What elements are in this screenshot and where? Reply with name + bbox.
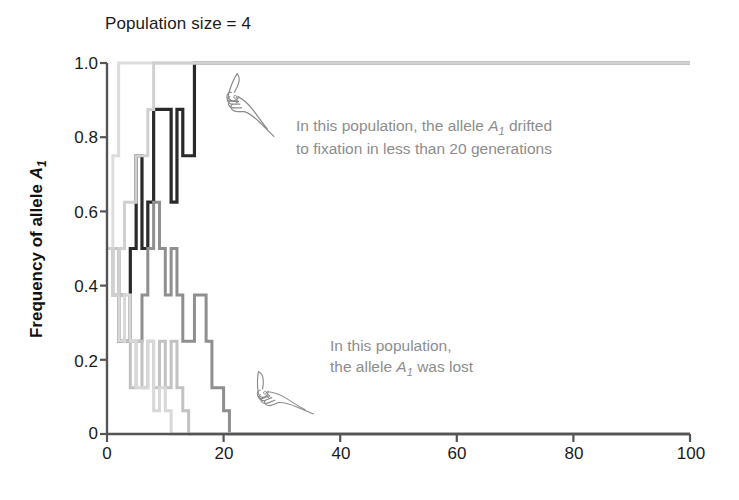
annotation-fixation-allele: A [488, 117, 498, 134]
annotation-fixation-line1: In this population, the allele A1 drifte… [296, 116, 552, 139]
annotation-fixation-line1-b: drifted [505, 117, 552, 134]
annotation-lost-line1: In this population, [330, 336, 473, 357]
annotation-fixation: In this population, the allele A1 drifte… [296, 116, 552, 160]
hand-pointing-icon-fixation [227, 74, 274, 137]
hand-pointing-icon-lost [249, 358, 313, 430]
annotation-fixation-line1-a: In this population, the allele [296, 117, 488, 134]
annotation-lost-line2-b: was lost [413, 358, 473, 375]
series-line-population-2-lost-midgray [107, 202, 690, 434]
genetic-drift-chart: Population size = 4 Frequency of allele … [0, 0, 739, 500]
annotation-lost-line2-a: the allele [330, 358, 396, 375]
annotation-lost: In this population, the allele A1 was lo… [330, 336, 473, 380]
annotation-lost-allele: A [396, 358, 406, 375]
annotation-fixation-line2: to fixation in less than 20 generations [296, 139, 552, 160]
plot-area [0, 0, 739, 500]
annotation-lost-line2: the allele A1 was lost [330, 357, 473, 380]
